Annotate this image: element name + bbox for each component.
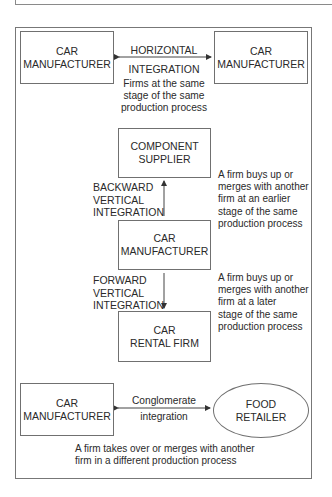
forward-vertical-integration-description: A firm buys up or merges with another fi… xyxy=(218,272,309,333)
ellipse-line1: FOOD xyxy=(236,398,287,411)
car-rental-firm-box: CAR RENTAL FIRM xyxy=(118,311,211,362)
box-line2: MANUFACTURER xyxy=(217,58,305,71)
desc-line: Firms at the same xyxy=(114,78,214,90)
box-line1: CAR xyxy=(121,232,209,245)
horizontal-integration-label: HORIZONTAL INTEGRATION xyxy=(114,44,214,75)
label-line: INTEGRATION xyxy=(93,299,164,312)
label-line1: Conglomerate xyxy=(114,395,214,408)
desc-line: merges with another xyxy=(218,284,309,296)
label-line: INTEGRATION xyxy=(93,206,164,219)
conglomerate-integration-label: Conglomerate integration xyxy=(114,395,214,423)
box-line1: COMPONENT xyxy=(130,140,198,153)
label-line: BACKWARD xyxy=(93,181,164,194)
label-line: VERTICAL xyxy=(93,287,164,300)
box-line1: CAR xyxy=(23,45,111,58)
desc-line: firm in a different production process xyxy=(75,455,255,467)
horizontal-right-car-manufacturer-box: CAR MANUFACTURER xyxy=(214,31,308,84)
label-line2: integration xyxy=(114,411,214,424)
desc-line: A firm takes over or merges with another xyxy=(75,443,255,455)
label-line: VERTICAL xyxy=(93,194,164,207)
desc-line: production process xyxy=(114,102,214,114)
component-supplier-box: COMPONENT SUPPLIER xyxy=(118,128,211,178)
desc-line: stage of the same xyxy=(114,90,214,102)
desc-line: stage of the same xyxy=(218,206,309,218)
box-line2: RENTAL FIRM xyxy=(130,337,199,350)
box-line1: CAR xyxy=(130,324,199,337)
ellipse-line2: RETAILER xyxy=(236,411,287,424)
desc-line: A firm buys up or xyxy=(218,169,309,181)
desc-line: merges with another xyxy=(218,181,309,193)
backward-vertical-integration-description: A firm buys up or merges with another fi… xyxy=(218,169,309,230)
desc-line: firm at an earlier xyxy=(218,193,309,205)
desc-line: production process xyxy=(218,218,309,230)
backward-vertical-integration-label: BACKWARD VERTICAL INTEGRATION xyxy=(93,181,164,219)
conglomerate-integration-description: A firm takes over or merges with another… xyxy=(75,443,255,467)
box-line2: MANUFACTURER xyxy=(23,58,111,71)
desc-line: firm at a later xyxy=(218,296,309,308)
box-line2: MANUFACTURER xyxy=(121,245,209,258)
box-line2: SUPPLIER xyxy=(130,153,198,166)
desc-line: stage of the same xyxy=(218,309,309,321)
label-line2: INTEGRATION xyxy=(114,63,214,76)
horizontal-integration-description: Firms at the same stage of the same prod… xyxy=(114,78,214,115)
conglomerate-car-manufacturer-box: CAR MANUFACTURER xyxy=(20,383,114,436)
desc-line: A firm buys up or xyxy=(218,272,309,284)
forward-vertical-integration-label: FORWARD VERTICAL INTEGRATION xyxy=(93,274,164,312)
desc-line: production process xyxy=(218,321,309,333)
food-retailer-ellipse: FOOD RETAILER xyxy=(213,383,309,438)
box-line1: CAR xyxy=(217,45,305,58)
horizontal-left-car-manufacturer-box: CAR MANUFACTURER xyxy=(20,31,114,84)
middle-car-manufacturer-box: CAR MANUFACTURER xyxy=(118,220,211,270)
box-line2: MANUFACTURER xyxy=(23,410,111,423)
box-line1: CAR xyxy=(23,397,111,410)
label-line1: HORIZONTAL xyxy=(114,44,214,57)
label-line: FORWARD xyxy=(93,274,164,287)
